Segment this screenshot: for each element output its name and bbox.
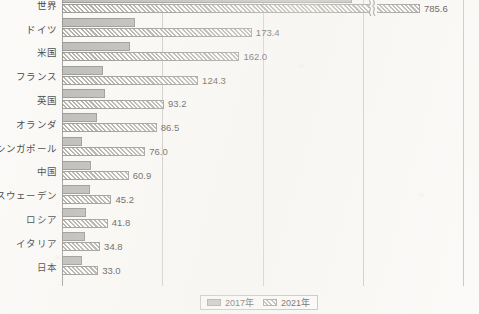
value-label: 60.9: [133, 171, 152, 181]
plot-area: 世界785.6ドイツ173.4米国162.0フランス124.3英国93.2オラン…: [62, 0, 479, 286]
bar-2021: [62, 171, 129, 180]
category-label: 日本: [37, 260, 57, 274]
category-label: 中国: [37, 164, 57, 178]
category-label: 米国: [37, 45, 57, 59]
legend-swatch-2021-icon: [263, 299, 277, 306]
chart-legend: 2017年 2021年: [200, 295, 318, 310]
value-label: 124.3: [202, 76, 226, 86]
chart-row: イタリア34.8: [62, 231, 479, 255]
chart-row: 世界785.6: [62, 0, 479, 17]
axis-break-icon: [366, 0, 379, 16]
bar-2021: [62, 28, 252, 37]
value-label: 93.2: [168, 99, 187, 109]
bar-2021: [62, 219, 108, 228]
category-label: スウェーデン: [0, 188, 57, 202]
bar-2021: [62, 147, 145, 156]
bar-2021: [62, 100, 164, 109]
bar-2017: [62, 18, 135, 27]
category-label: フランス: [16, 69, 57, 83]
bar-2017: [62, 208, 86, 217]
bar-2017: [62, 89, 105, 98]
category-label: 英国: [37, 93, 57, 107]
chart-row: シンガポール76.0: [62, 136, 479, 160]
chart-row: オランダ86.5: [62, 112, 479, 136]
legend-item-2021[interactable]: 2021年: [263, 296, 310, 309]
bar-2021: [62, 76, 198, 85]
legend-label-2017: 2017年: [225, 296, 254, 309]
bar-2017: [62, 0, 352, 3]
bar-2017: [62, 185, 90, 194]
value-label: 162.0: [243, 52, 267, 62]
chart-row: フランス124.3: [62, 64, 479, 88]
category-label: オランダ: [16, 117, 57, 131]
bar-2021: [62, 195, 111, 204]
category-label: ドイツ: [26, 22, 57, 36]
legend-swatch-2017-icon: [207, 299, 221, 306]
value-label: 76.0: [149, 147, 168, 157]
chart-row: 米国162.0: [62, 41, 479, 65]
bar-2017: [62, 113, 97, 122]
bar-2021: [62, 266, 98, 275]
bar-2017: [62, 161, 91, 170]
chart-row: スウェーデン45.2: [62, 183, 479, 207]
bar-2021: [62, 242, 100, 251]
category-label: イタリア: [16, 236, 57, 250]
chart-row: 中国60.9: [62, 160, 479, 184]
value-label: 86.5: [161, 123, 180, 133]
bar-2021: [62, 52, 239, 61]
chart-row: ロシア41.8: [62, 207, 479, 231]
value-label: 41.8: [112, 218, 131, 228]
category-label: 世界: [37, 0, 57, 12]
chart-row: 日本33.0: [62, 255, 479, 279]
bar-2017: [62, 137, 82, 146]
value-label: 33.0: [102, 266, 121, 276]
legend-item-2017[interactable]: 2017年: [207, 296, 254, 309]
chart-row: ドイツ173.4: [62, 17, 479, 41]
legend-label-2021: 2021年: [281, 296, 310, 309]
bar-chart: 世界785.6ドイツ173.4米国162.0フランス124.3英国93.2オラン…: [0, 0, 479, 314]
bar-2017: [62, 66, 103, 75]
bar-2017: [62, 42, 130, 51]
value-label: 45.2: [115, 195, 134, 205]
bar-2017: [62, 256, 82, 265]
category-label: シンガポール: [0, 141, 57, 155]
value-label: 34.8: [104, 242, 123, 252]
value-label: 785.6: [424, 4, 448, 14]
chart-row: 英国93.2: [62, 88, 479, 112]
bar-2021: [62, 123, 157, 132]
value-label: 173.4: [256, 28, 280, 38]
category-label: ロシア: [26, 212, 57, 226]
bar-2017: [62, 232, 85, 241]
